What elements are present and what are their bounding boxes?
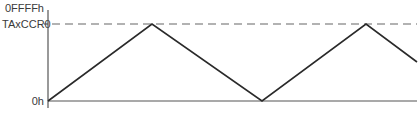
triangle-waveform: [48, 24, 417, 101]
timer-waveform-diagram: 0FFFFh TAxCCR0 0h: [0, 0, 419, 121]
waveform-plot: [0, 0, 419, 121]
